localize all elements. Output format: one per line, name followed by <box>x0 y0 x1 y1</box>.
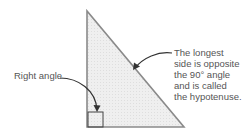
right-triangle <box>87 11 184 127</box>
hypotenuse-arrow <box>135 53 172 68</box>
hypotenuse-label-line: and is called <box>174 80 242 91</box>
hypotenuse-label-line: side is opposite <box>174 58 242 69</box>
right-angle-label: Right angle <box>14 70 62 81</box>
hypotenuse-label-line: the 90° angle <box>174 69 242 80</box>
hypotenuse-label-line: the hypotenuse. <box>174 91 242 102</box>
hypotenuse-label-line: The longest <box>174 47 242 58</box>
hypotenuse-label: The longest side is opposite the 90° ang… <box>174 47 242 102</box>
